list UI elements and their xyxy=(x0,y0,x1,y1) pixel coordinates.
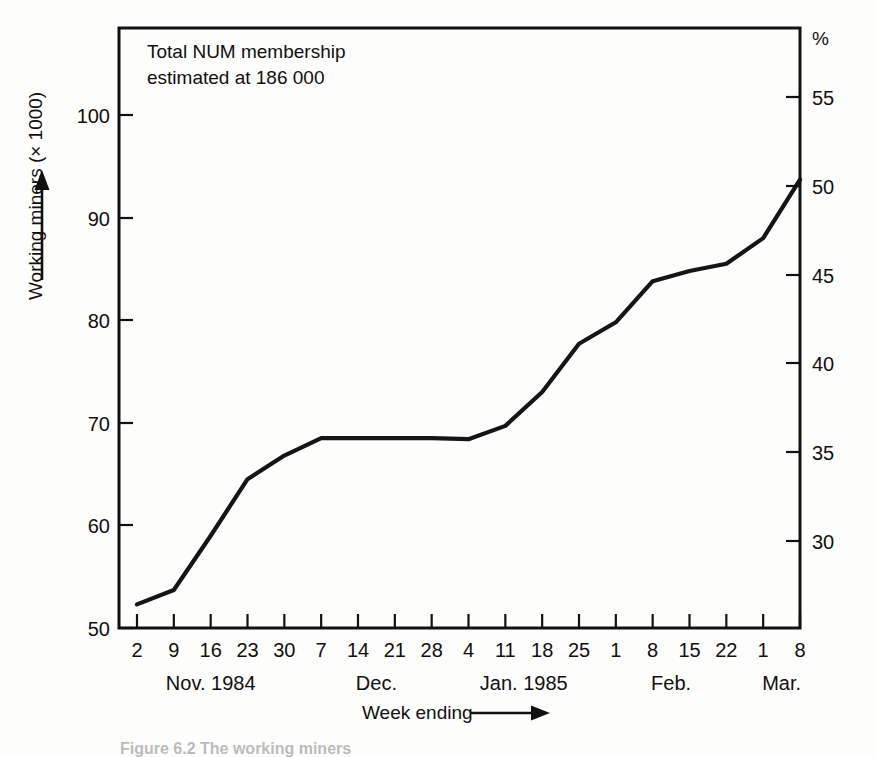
x-tick-label: 23 xyxy=(236,639,258,661)
x-tick-label: 1 xyxy=(758,639,769,661)
x-tick-label: 1 xyxy=(610,639,621,661)
x-month-label: Mar. xyxy=(762,672,801,694)
x-axis-ticks xyxy=(137,614,800,628)
y-axis-left-ticks xyxy=(119,115,133,628)
x-tick-label: 25 xyxy=(568,639,590,661)
y-right-tick-35: 35 xyxy=(812,442,834,464)
x-tick-label: 9 xyxy=(168,639,179,661)
x-tick-label: 8 xyxy=(647,639,658,661)
annotation-line-1: Total NUM membership xyxy=(147,41,346,62)
y-right-tick-30: 30 xyxy=(812,531,834,553)
data-series-working-miners xyxy=(137,180,800,605)
y-right-unit-label: % xyxy=(812,28,829,49)
x-tick-label: 16 xyxy=(200,639,222,661)
y-right-tick-55: 55 xyxy=(812,87,834,109)
x-tick-label: 14 xyxy=(347,639,369,661)
annotation-line-2: estimated at 186 000 xyxy=(147,67,324,88)
arrow-right-icon xyxy=(531,706,550,721)
x-month-label: Jan. 1985 xyxy=(480,672,568,694)
plot-frame xyxy=(119,28,800,628)
y-axis-right-ticks xyxy=(786,97,800,541)
y-left-tick-70: 70 xyxy=(88,413,110,435)
x-tick-label: 11 xyxy=(495,639,516,661)
y-axis-right-labels: 55 50 45 40 35 30 xyxy=(812,87,834,553)
y-axis-left-labels: 100 90 80 70 60 50 xyxy=(77,105,110,640)
x-tick-label: 15 xyxy=(678,639,700,661)
y-right-tick-45: 45 xyxy=(812,265,834,287)
x-axis-title: Week ending xyxy=(362,702,473,723)
y-left-tick-60: 60 xyxy=(88,515,110,537)
x-tick-label: 18 xyxy=(531,639,553,661)
x-axis-tick-labels: 291623307142128411182518152218 xyxy=(131,639,805,661)
y-left-tick-90: 90 xyxy=(88,208,110,230)
x-tick-label: 4 xyxy=(463,639,474,661)
x-tick-label: 21 xyxy=(384,639,406,661)
x-tick-label: 2 xyxy=(131,639,142,661)
x-tick-label: 28 xyxy=(421,639,443,661)
x-axis-title-group: Week ending xyxy=(362,702,550,723)
x-tick-label: 7 xyxy=(316,639,327,661)
x-axis-month-labels: Nov. 1984Dec.Jan. 1985Feb.Mar. xyxy=(166,672,801,694)
y-left-tick-50: 50 xyxy=(88,618,110,640)
x-tick-label: 30 xyxy=(273,639,295,661)
x-month-label: Feb. xyxy=(651,672,691,694)
x-month-label: Nov. 1984 xyxy=(166,672,256,694)
x-month-label: Dec. xyxy=(356,672,397,694)
y-left-tick-100: 100 xyxy=(77,105,110,127)
y-axis-title: Working miners (× 1000) xyxy=(25,92,46,300)
line-chart: 100 90 80 70 60 50 55 50 45 40 35 30 % xyxy=(0,0,875,757)
y-right-tick-40: 40 xyxy=(812,353,834,375)
figure-caption: Figure 6.2 The working miners xyxy=(120,740,351,757)
figure-container: 100 90 80 70 60 50 55 50 45 40 35 30 % xyxy=(0,0,875,757)
x-tick-label: 8 xyxy=(794,639,805,661)
y-left-tick-80: 80 xyxy=(88,310,110,332)
y-right-tick-50: 50 xyxy=(812,176,834,198)
x-tick-label: 22 xyxy=(715,639,737,661)
y-axis-title-group: Working miners (× 1000) xyxy=(25,92,50,300)
